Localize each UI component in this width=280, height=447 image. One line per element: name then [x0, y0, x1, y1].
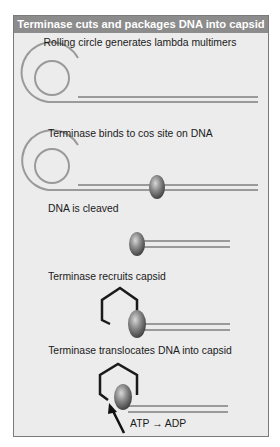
step-5-label: Terminase translocates DNA into capsid [0, 345, 280, 356]
terminase-icon [128, 310, 146, 338]
step-1-label: Rolling circle generates lambda multimer… [0, 37, 280, 48]
atp-adp-annotation: ATP → ADP [130, 418, 186, 429]
step-4-label: Terminase recruits capsid [48, 271, 166, 282]
step-2-label: Terminase binds to cos site on DNA [48, 128, 213, 139]
rolling-circle-dna-icon [22, 42, 258, 102]
terminase-icon [129, 232, 145, 256]
diagram-artwork [0, 0, 280, 447]
terminase-bound-dna-icon [22, 130, 258, 199]
capsid-recruit-icon [102, 288, 230, 338]
cleaved-dna-icon [129, 232, 230, 256]
terminase-icon [149, 175, 165, 199]
terminase-icon [114, 384, 132, 410]
step-3-label: DNA is cleaved [48, 203, 118, 214]
